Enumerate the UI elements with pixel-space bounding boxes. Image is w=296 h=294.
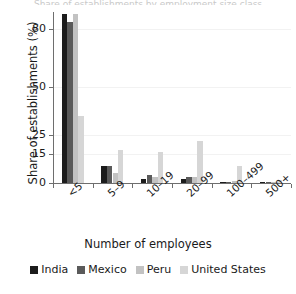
y-axis-tick: 15	[49, 154, 53, 155]
bar	[107, 166, 112, 183]
x-axis-tick	[132, 184, 133, 188]
legend-item[interactable]: United States	[180, 263, 266, 276]
gridline	[54, 135, 291, 136]
x-axis-tick	[291, 184, 292, 188]
x-axis-tick	[212, 184, 213, 188]
y-axis-tick-label: 50	[32, 80, 46, 93]
cropped-title: Share of establishments by employment si…	[0, 0, 296, 5]
gridline	[54, 154, 291, 155]
x-axis-tick	[251, 184, 252, 188]
legend-swatch-icon	[77, 266, 85, 274]
legend-item-label: Mexico	[88, 263, 126, 276]
chart-figure: Share of establishments by employment si…	[0, 0, 296, 294]
x-axis-tick	[93, 184, 94, 188]
x-axis-tick	[172, 184, 173, 188]
legend-swatch-icon	[136, 266, 144, 274]
legend-item[interactable]: Mexico	[77, 263, 126, 276]
y-axis-tick: 25	[49, 135, 53, 136]
bar	[101, 166, 106, 183]
y-axis-tick: 80	[49, 29, 53, 30]
bar	[78, 116, 83, 183]
y-axis-tick-label: 0	[39, 176, 46, 189]
legend-item-label: United States	[191, 263, 266, 276]
y-axis-tick-label: 15	[32, 147, 46, 160]
y-axis-tick-label: 80	[32, 22, 46, 35]
y-axis-tick-label: 25	[32, 128, 46, 141]
bar	[67, 22, 72, 183]
legend-swatch-icon	[180, 266, 188, 274]
bar	[62, 14, 67, 183]
legend-item[interactable]: India	[30, 263, 68, 276]
y-axis-line	[53, 12, 54, 184]
x-axis-tick	[53, 184, 54, 188]
y-axis-title: Share of establishments (%)	[26, 18, 40, 188]
plot-area: 015255080 <55–910–1920–99100–499500+	[53, 12, 291, 184]
x-axis-tick-label: 500+	[263, 171, 292, 199]
legend-swatch-icon	[30, 266, 38, 274]
y-axis-tick: 50	[49, 87, 53, 88]
x-axis-tick-label: 100–499	[224, 160, 266, 199]
legend: IndiaMexicoPeruUnited States	[0, 263, 296, 276]
gridline	[54, 87, 291, 88]
bar	[73, 14, 78, 183]
legend-item-label: India	[41, 263, 68, 276]
legend-item-label: Peru	[147, 263, 172, 276]
legend-item[interactable]: Peru	[136, 263, 172, 276]
x-axis-title: Number of employees	[0, 237, 296, 251]
gridline	[54, 29, 291, 30]
